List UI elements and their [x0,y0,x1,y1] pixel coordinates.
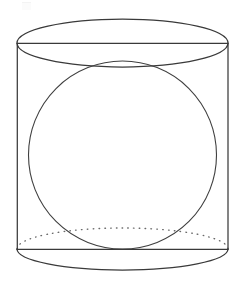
sphere-in-cylinder-diagram [0,0,239,289]
figure-canvas [0,0,239,289]
